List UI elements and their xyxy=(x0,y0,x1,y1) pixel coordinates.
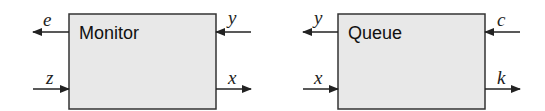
monitor-port-y-label: y xyxy=(226,7,237,28)
monitor-block: Monitor e z y x xyxy=(33,7,251,109)
queue-port-x-label: x xyxy=(313,67,323,88)
queue-port-c-label: c xyxy=(497,9,506,30)
queue-block: Queue y x c k xyxy=(303,7,520,109)
monitor-port-e-label: e xyxy=(43,9,51,30)
queue-title: Queue xyxy=(348,23,402,43)
queue-port-y-label: y xyxy=(312,7,323,28)
queue-port-k-label: k xyxy=(497,67,506,88)
monitor-title: Monitor xyxy=(79,23,139,43)
block-diagram: Monitor e z y x Queue y x c k xyxy=(0,0,545,111)
monitor-port-x-label: x xyxy=(227,67,237,88)
monitor-port-z-label: z xyxy=(45,67,54,88)
